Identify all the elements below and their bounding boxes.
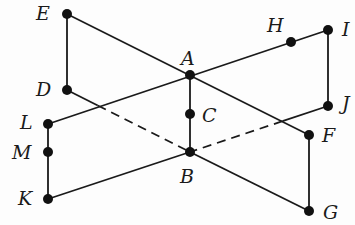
point-L	[43, 119, 53, 129]
label-J: J	[342, 94, 350, 113]
label-L: L	[20, 113, 33, 132]
point-G	[304, 206, 314, 216]
label-E: E	[36, 4, 50, 23]
label-B: B	[180, 167, 194, 186]
segment-DB-dashed	[98, 106, 190, 153]
point-J	[323, 101, 333, 111]
label-H: H	[267, 16, 284, 35]
label-C: C	[202, 106, 217, 125]
label-G: G	[323, 203, 338, 222]
point-B	[185, 147, 195, 157]
point-M	[43, 147, 53, 157]
label-I: I	[342, 20, 350, 39]
point-A	[185, 70, 195, 80]
segment-KB	[48, 152, 190, 199]
label-K: K	[18, 189, 32, 208]
point-H	[286, 37, 296, 47]
point-I	[323, 25, 333, 35]
segment-DB-solid	[67, 90, 98, 106]
segment-BG	[190, 152, 309, 211]
segment-JB-solid	[282, 106, 328, 121]
point-D	[62, 85, 72, 95]
point-C	[185, 109, 195, 119]
label-F: F	[322, 126, 335, 145]
point-E	[62, 9, 72, 19]
point-F	[304, 130, 314, 140]
label-D: D	[36, 80, 51, 99]
label-A: A	[181, 49, 195, 68]
diagram-svg	[0, 0, 355, 225]
point-K	[43, 194, 53, 204]
geometry-diagram: EDAHIJCBFGLMK	[0, 0, 355, 225]
label-M: M	[12, 143, 31, 162]
